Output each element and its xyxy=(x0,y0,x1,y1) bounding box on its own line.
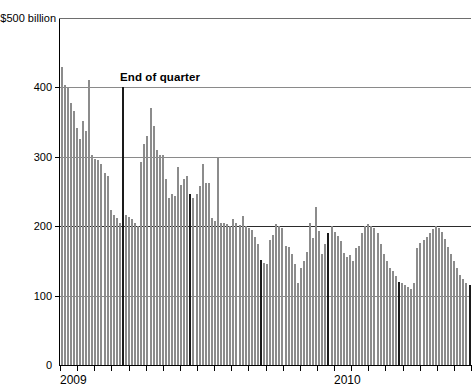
bar xyxy=(186,176,188,365)
bar xyxy=(331,226,333,365)
bar-quarter-end xyxy=(260,260,262,365)
bar xyxy=(309,223,311,365)
bar xyxy=(165,179,167,365)
x-tick xyxy=(94,365,95,371)
bar xyxy=(416,248,418,365)
bar xyxy=(97,160,99,365)
bar xyxy=(355,248,357,365)
bar-quarter-end xyxy=(327,233,329,365)
bar xyxy=(70,103,72,365)
bar xyxy=(413,283,415,365)
bar xyxy=(162,155,164,365)
bar xyxy=(423,240,425,365)
bar xyxy=(364,226,366,365)
bar xyxy=(150,108,152,365)
y-axis-label-300: 300 xyxy=(0,152,52,163)
bar-quarter-end xyxy=(469,285,471,365)
bar xyxy=(389,268,391,365)
bar-chart: $500 billion 400 300 200 100 0 2009 2010… xyxy=(0,0,472,392)
bar xyxy=(383,254,385,365)
bar xyxy=(248,228,250,365)
bar xyxy=(386,261,388,365)
bar xyxy=(180,185,182,365)
bar xyxy=(174,196,176,365)
bar xyxy=(143,144,145,365)
x-tick xyxy=(248,365,249,371)
bar xyxy=(450,254,452,365)
bar xyxy=(192,198,194,365)
bar xyxy=(171,194,173,365)
bar xyxy=(426,237,428,365)
x-tick xyxy=(334,365,335,371)
bar xyxy=(64,85,66,365)
y-tick-300 xyxy=(55,157,60,158)
bar xyxy=(303,261,305,365)
bar xyxy=(156,150,158,365)
bar xyxy=(110,210,112,365)
bar xyxy=(125,215,127,365)
bar xyxy=(177,167,179,365)
bar xyxy=(318,231,320,365)
bar xyxy=(465,283,467,365)
bar xyxy=(217,157,219,365)
bar xyxy=(291,254,293,365)
bar xyxy=(211,218,213,365)
bar xyxy=(134,223,136,365)
bar xyxy=(220,223,222,365)
bar xyxy=(377,233,379,365)
x-tick xyxy=(77,365,78,371)
x-axis-line xyxy=(59,365,471,366)
x-tick xyxy=(437,365,438,371)
y-axis-label-0: 0 xyxy=(0,360,52,371)
x-tick xyxy=(300,365,301,371)
y-tick-400 xyxy=(55,87,60,88)
bar xyxy=(361,233,363,365)
bar xyxy=(404,285,406,365)
bar xyxy=(91,155,93,365)
bar xyxy=(453,261,455,365)
bar xyxy=(107,176,109,365)
bar-quarter-end xyxy=(122,87,124,365)
bar xyxy=(288,247,290,365)
bar xyxy=(76,128,78,365)
bar xyxy=(297,283,299,365)
x-tick xyxy=(111,365,112,371)
y-axis-label-200: 200 xyxy=(0,221,52,232)
bar xyxy=(85,131,87,365)
bar xyxy=(94,159,96,365)
bar xyxy=(168,198,170,365)
bar xyxy=(370,226,372,365)
x-tick xyxy=(454,365,455,371)
bar xyxy=(358,246,360,365)
bar xyxy=(235,223,237,365)
y-axis-label-400: 400 xyxy=(0,82,52,93)
x-tick xyxy=(420,365,421,371)
x-axis-label-2009: 2009 xyxy=(60,374,87,386)
bar xyxy=(137,226,139,365)
bar xyxy=(321,254,323,365)
bar xyxy=(119,223,121,365)
x-tick xyxy=(197,365,198,371)
x-tick xyxy=(214,365,215,371)
bar xyxy=(324,244,326,365)
bar xyxy=(462,279,464,365)
bar xyxy=(312,238,314,365)
bar xyxy=(226,224,228,365)
bar xyxy=(281,228,283,365)
bar xyxy=(229,226,231,365)
bar xyxy=(88,80,90,365)
bar xyxy=(266,264,268,365)
bar xyxy=(131,219,133,365)
x-tick xyxy=(129,365,130,371)
x-tick xyxy=(146,365,147,371)
bar xyxy=(128,217,130,365)
bar xyxy=(337,236,339,365)
bar xyxy=(146,136,148,365)
bar xyxy=(245,226,247,365)
bar xyxy=(199,186,201,365)
bar xyxy=(104,173,106,365)
bar xyxy=(214,221,216,365)
bar xyxy=(232,219,234,365)
bar xyxy=(300,268,302,365)
y-tick-100 xyxy=(55,296,60,297)
